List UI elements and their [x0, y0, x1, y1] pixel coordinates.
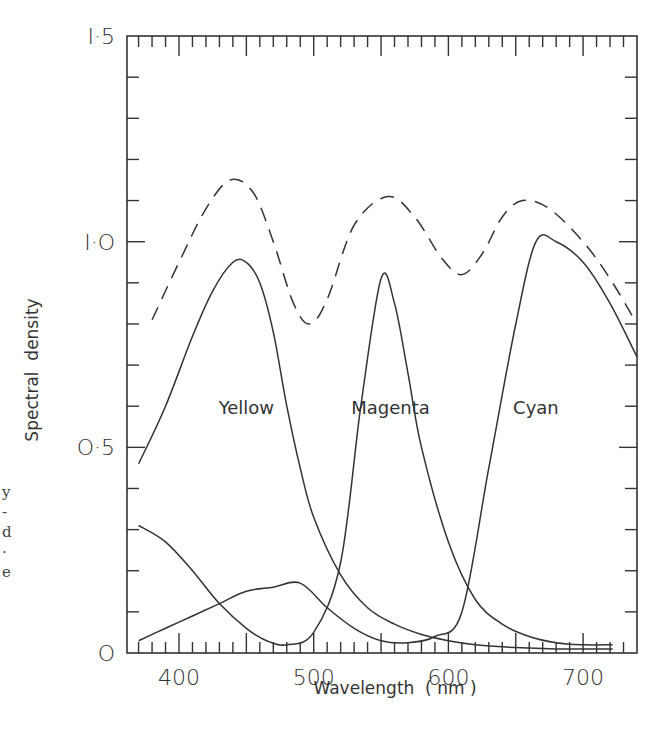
x-tick-label: 700 — [562, 665, 604, 690]
y-tick-label: I·5 — [88, 24, 115, 49]
margin-fragment: - — [2, 502, 7, 522]
curve-label: Cyan — [513, 397, 559, 418]
margin-fragment: · — [2, 542, 7, 562]
y-tick-label: O·5 — [77, 435, 115, 460]
curve-label: Magenta — [351, 397, 430, 418]
axis-ticks — [127, 36, 637, 653]
curve-labels: YellowMagentaCyan — [218, 397, 559, 418]
margin-fragment: d — [2, 522, 12, 542]
spectral-density-chart: 400500600700OO·5I·OI·5 Wavelength ( nm )… — [0, 0, 662, 739]
x-tick-label: 400 — [158, 665, 200, 690]
margin-fragment: e — [2, 562, 11, 582]
x-axis-title: Wavelength ( nm ) — [313, 678, 476, 698]
margin-fragment: y — [2, 482, 10, 502]
plot-border — [127, 36, 637, 653]
curve-cyan — [139, 235, 637, 643]
curve-magenta — [139, 273, 613, 645]
y-axis-title: Spectral density — [22, 298, 42, 441]
plot-frame — [127, 36, 637, 653]
y-tick-label: O — [98, 641, 115, 666]
curve-label: Yellow — [218, 397, 274, 418]
curve-yellow — [139, 259, 613, 649]
y-tick-label: I·O — [84, 230, 115, 255]
axis-labels: 400500600700OO·5I·OI·5 — [77, 24, 604, 690]
